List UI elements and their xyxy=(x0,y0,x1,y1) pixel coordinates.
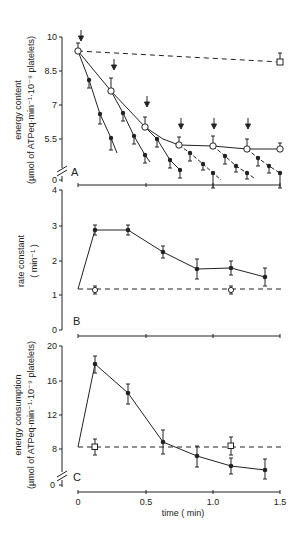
panel-a-ylabel-line2: (µmol of ATPeq·min⁻¹·10⁻⁹ platelets) xyxy=(26,36,36,184)
panel-b: rate constant ( min⁻¹ ) 4 3 2 1 0 B xyxy=(16,185,284,338)
panel-c-error-bars xyxy=(93,356,267,479)
panel-c-filled-markers xyxy=(93,362,268,473)
xtick-1.0: 1.0 xyxy=(207,497,220,507)
figure: energy content (µmol of ATPeq·min⁻¹·10⁻⁹… xyxy=(0,0,305,534)
panel-a-ytick-5.5: 5.5 xyxy=(44,134,57,144)
panel-b-ytick-2: 2 xyxy=(52,256,57,266)
xtick-0: 0 xyxy=(75,497,80,507)
panel-c-ytick-0: 0 xyxy=(50,480,55,490)
panel-c-ytick-20: 20 xyxy=(47,341,57,351)
panel-a-control-line xyxy=(78,51,280,62)
xtick-0.5: 0.5 xyxy=(140,497,153,507)
panel-a-chain-3 xyxy=(145,127,180,170)
panel-a-ytick-7: 7 xyxy=(52,100,57,110)
panel-c: energy consumption (µmol of ATPeq·min⁻¹·… xyxy=(13,341,286,518)
panel-b-ytick-4: 4 xyxy=(52,185,57,195)
panel-a-ytick-10: 10 xyxy=(47,32,57,42)
arrow-down-icon xyxy=(246,118,251,129)
panel-c-stimulated-line xyxy=(78,364,265,470)
panel-b-filled-markers xyxy=(93,228,268,280)
panel-c-ylabel-line2: (µmol of ATPeq·min⁻¹·10⁻⁹ platelets) xyxy=(26,341,36,489)
panel-a-arrows xyxy=(79,30,251,129)
panel-a-ytick-8.5: 8.5 xyxy=(44,66,57,76)
arrow-down-icon xyxy=(179,118,184,129)
panel-b-ytick-1: 1 xyxy=(52,290,57,300)
panel-b-letter: B xyxy=(73,315,80,327)
panel-a-letter: A xyxy=(71,166,79,178)
panel-a: energy content (µmol of ATPeq·min⁻¹·10⁻⁹… xyxy=(13,30,283,188)
panel-c-letter: C xyxy=(73,471,81,483)
panel-a-error-bars xyxy=(76,43,282,188)
panel-a-chain-4 xyxy=(179,145,221,180)
panel-b-ytick-3: 3 xyxy=(52,221,57,231)
panel-b-ytick-0: 0 xyxy=(52,325,57,335)
panel-c-ylabel-line1: energy consumption xyxy=(13,374,23,455)
panel-a-main-curve xyxy=(78,51,280,149)
panel-a-ylabel-line1: energy content xyxy=(13,80,23,140)
panel-c-ytick-16: 16 xyxy=(47,376,57,386)
panel-a-ytick-0: 0 xyxy=(52,175,57,185)
arrow-down-icon xyxy=(212,118,217,129)
x-axis-title: time ( min) xyxy=(162,508,205,518)
xtick-1.5: 1.5 xyxy=(274,497,287,507)
arrow-down-icon xyxy=(79,30,84,41)
panel-c-ytick-8: 8 xyxy=(52,444,57,454)
panel-b-open-markers xyxy=(92,287,233,292)
panel-b-error-bars xyxy=(93,225,267,294)
panel-a-chain-6 xyxy=(247,149,280,173)
axis-break-icon xyxy=(57,471,67,481)
panel-c-ytick-12: 12 xyxy=(47,410,57,420)
arrow-down-icon xyxy=(112,59,117,70)
panel-b-ylabel-line2: ( min⁻¹ ) xyxy=(29,244,39,278)
panel-a-filled-markers xyxy=(87,78,282,175)
arrow-down-icon xyxy=(145,96,150,107)
panel-b-stimulated-line xyxy=(78,230,265,289)
panel-b-ylabel-line1: rate constant xyxy=(16,234,26,287)
